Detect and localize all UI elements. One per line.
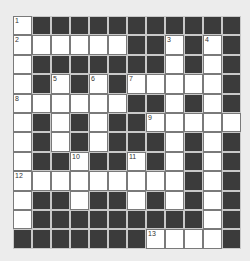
crossword-cell[interactable] bbox=[13, 132, 32, 151]
crossword-cell[interactable] bbox=[184, 229, 203, 248]
crossword-cell[interactable] bbox=[127, 171, 146, 190]
block-cell bbox=[51, 210, 70, 229]
clue-number: 9 bbox=[148, 114, 152, 122]
crossword-cell[interactable]: 8 bbox=[13, 94, 32, 113]
crossword-cell[interactable] bbox=[165, 74, 184, 93]
crossword-cell[interactable] bbox=[203, 210, 222, 229]
block-cell bbox=[127, 94, 146, 113]
crossword-cell[interactable] bbox=[13, 55, 32, 74]
block-cell bbox=[51, 152, 70, 171]
crossword-cell[interactable] bbox=[165, 152, 184, 171]
block-cell bbox=[165, 210, 184, 229]
crossword-cell[interactable] bbox=[165, 55, 184, 74]
crossword-cell[interactable] bbox=[32, 171, 51, 190]
crossword-cell[interactable]: 3 bbox=[165, 35, 184, 54]
crossword-cell[interactable]: 11 bbox=[127, 152, 146, 171]
crossword-cell[interactable]: 10 bbox=[70, 152, 89, 171]
block-cell bbox=[184, 94, 203, 113]
crossword-cell[interactable]: 9 bbox=[146, 113, 165, 132]
block-cell bbox=[32, 152, 51, 171]
block-cell bbox=[108, 229, 127, 248]
crossword-cell[interactable] bbox=[203, 94, 222, 113]
crossword-cell[interactable] bbox=[13, 191, 32, 210]
crossword-cell[interactable]: 13 bbox=[146, 229, 165, 248]
clue-number: 6 bbox=[91, 75, 95, 83]
block-cell bbox=[70, 210, 89, 229]
block-cell bbox=[184, 191, 203, 210]
crossword-cell[interactable] bbox=[70, 191, 89, 210]
block-cell bbox=[184, 171, 203, 190]
block-cell bbox=[184, 152, 203, 171]
crossword-cell[interactable]: 7 bbox=[127, 74, 146, 93]
crossword-cell[interactable] bbox=[203, 113, 222, 132]
crossword-cell[interactable] bbox=[89, 171, 108, 190]
crossword-cell[interactable] bbox=[89, 94, 108, 113]
block-cell bbox=[184, 132, 203, 151]
block-cell bbox=[108, 74, 127, 93]
crossword-cell[interactable] bbox=[165, 171, 184, 190]
crossword-cell[interactable] bbox=[13, 152, 32, 171]
block-cell bbox=[127, 35, 146, 54]
crossword-cell[interactable] bbox=[108, 35, 127, 54]
block-cell bbox=[13, 229, 32, 248]
clue-number: 1 bbox=[15, 17, 19, 25]
crossword-cell[interactable] bbox=[184, 74, 203, 93]
block-cell bbox=[146, 152, 165, 171]
crossword-cell[interactable] bbox=[146, 171, 165, 190]
crossword-cell[interactable] bbox=[127, 191, 146, 210]
crossword-cell[interactable] bbox=[203, 74, 222, 93]
crossword-cell[interactable]: 2 bbox=[13, 35, 32, 54]
crossword-cell[interactable] bbox=[108, 171, 127, 190]
crossword-cell[interactable] bbox=[51, 113, 70, 132]
crossword-cell[interactable] bbox=[203, 132, 222, 151]
crossword-cell[interactable] bbox=[108, 94, 127, 113]
crossword-cell[interactable]: 6 bbox=[89, 74, 108, 93]
crossword-cell[interactable] bbox=[13, 113, 32, 132]
crossword-cell[interactable] bbox=[13, 74, 32, 93]
crossword-cell[interactable] bbox=[203, 229, 222, 248]
crossword-cell[interactable] bbox=[165, 191, 184, 210]
crossword-cell[interactable] bbox=[89, 35, 108, 54]
block-cell bbox=[127, 55, 146, 74]
block-cell bbox=[89, 191, 108, 210]
crossword-cell[interactable]: 12 bbox=[13, 171, 32, 190]
crossword-cell[interactable] bbox=[70, 171, 89, 190]
block-cell bbox=[222, 74, 241, 93]
crossword-cell[interactable] bbox=[51, 94, 70, 113]
crossword-cell[interactable] bbox=[165, 113, 184, 132]
clue-number: 7 bbox=[129, 75, 133, 83]
crossword-cell[interactable]: 5 bbox=[51, 74, 70, 93]
crossword-cell[interactable] bbox=[51, 171, 70, 190]
block-cell bbox=[70, 16, 89, 35]
crossword-cell[interactable]: 4 bbox=[203, 35, 222, 54]
crossword-cell[interactable] bbox=[51, 35, 70, 54]
crossword-cell[interactable] bbox=[32, 35, 51, 54]
crossword-cell[interactable]: 1 bbox=[13, 16, 32, 35]
crossword-cell[interactable] bbox=[222, 113, 241, 132]
crossword-cell[interactable] bbox=[13, 210, 32, 229]
clue-number: 8 bbox=[15, 95, 19, 103]
crossword-grid: 12345678910111213 bbox=[13, 16, 241, 249]
crossword-cell[interactable] bbox=[51, 132, 70, 151]
crossword-cell[interactable] bbox=[70, 35, 89, 54]
block-cell bbox=[222, 229, 241, 248]
crossword-cell[interactable] bbox=[70, 94, 89, 113]
crossword-cell[interactable] bbox=[165, 229, 184, 248]
crossword-cell[interactable] bbox=[165, 132, 184, 151]
block-cell bbox=[222, 94, 241, 113]
crossword-cell[interactable] bbox=[203, 152, 222, 171]
crossword-cell[interactable] bbox=[184, 113, 203, 132]
block-cell bbox=[70, 113, 89, 132]
crossword-cell[interactable] bbox=[89, 113, 108, 132]
crossword-cell[interactable] bbox=[32, 94, 51, 113]
crossword-cell[interactable] bbox=[203, 171, 222, 190]
crossword-cell[interactable] bbox=[203, 191, 222, 210]
block-cell bbox=[70, 74, 89, 93]
crossword-cell[interactable] bbox=[89, 132, 108, 151]
block-cell bbox=[184, 210, 203, 229]
crossword-cell[interactable] bbox=[146, 74, 165, 93]
crossword-cell[interactable] bbox=[203, 55, 222, 74]
block-cell bbox=[127, 132, 146, 151]
block-cell bbox=[32, 191, 51, 210]
crossword-cell[interactable] bbox=[165, 94, 184, 113]
